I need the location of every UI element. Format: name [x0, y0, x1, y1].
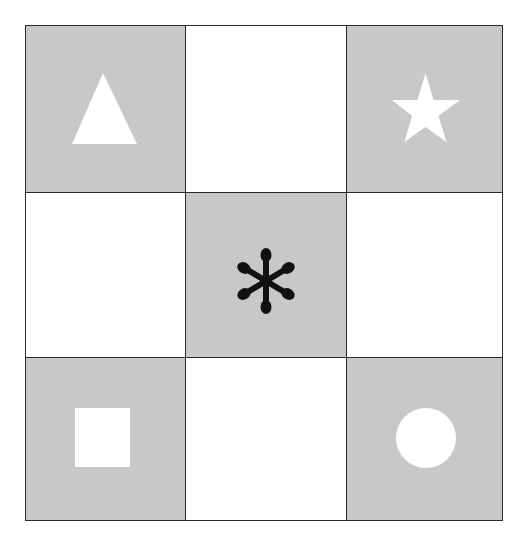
- star-icon: [392, 73, 460, 142]
- asterisk-icon: [235, 248, 297, 314]
- circle-icon: [396, 408, 456, 468]
- shapes-layer: [0, 0, 528, 545]
- triangle-icon: [72, 73, 137, 144]
- square-icon: [75, 408, 130, 467]
